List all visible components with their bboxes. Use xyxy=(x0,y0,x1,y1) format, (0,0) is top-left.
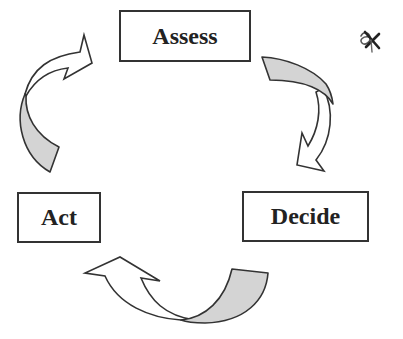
node-act-label: Act xyxy=(41,204,77,231)
cycle-diagram: Assess Decide Act xyxy=(0,0,403,339)
node-assess: Assess xyxy=(119,10,251,62)
arrow-assess-to-decide xyxy=(262,57,333,171)
arrow-act-to-assess xyxy=(20,35,92,172)
node-assess-label: Assess xyxy=(152,23,217,50)
node-act: Act xyxy=(17,192,101,243)
node-decide: Decide xyxy=(242,191,369,242)
arrow-decide-to-act xyxy=(85,257,268,323)
scribble-mark-icon xyxy=(357,28,383,54)
node-decide-label: Decide xyxy=(271,203,340,230)
